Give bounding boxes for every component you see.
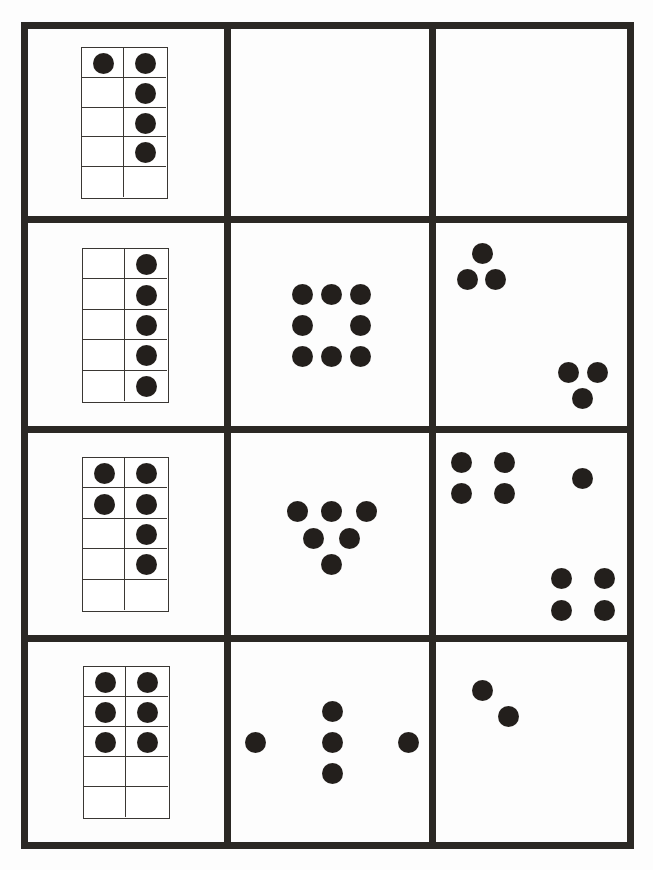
ten-frame-dot: [137, 672, 158, 693]
ten-frame-dot: [95, 702, 116, 723]
ten-frame-cell: [124, 167, 166, 197]
pattern-dot: [350, 346, 371, 367]
pattern-dot: [303, 528, 324, 549]
ten-frame-cell: [83, 580, 125, 610]
ten-frame-cell: [82, 167, 124, 197]
ten-frame-dot: [135, 83, 156, 104]
ten-frame-dot: [135, 113, 156, 134]
ten-frame-dot: [136, 494, 157, 515]
pattern-dot: [558, 362, 579, 383]
pattern-dot: [321, 554, 342, 575]
pattern-dot: [472, 680, 493, 701]
pattern-dot: [551, 600, 572, 621]
pattern-dot: [322, 701, 343, 722]
column-divider-1: [224, 22, 231, 849]
pattern-dot: [321, 501, 342, 522]
worksheet: [0, 0, 653, 870]
pattern-dot: [457, 269, 478, 290]
ten-frame-cell: [82, 137, 124, 167]
pattern-dot: [321, 284, 342, 305]
ten-frame-cell: [126, 757, 168, 787]
row-divider-2: [21, 426, 634, 433]
pattern-dot: [594, 568, 615, 589]
pattern-dot: [587, 362, 608, 383]
outer-border-right: [627, 22, 634, 849]
pattern-dot: [594, 600, 615, 621]
pattern-dot: [245, 732, 266, 753]
ten-frame-dot: [95, 672, 116, 693]
ten-frame-dot: [136, 315, 157, 336]
pattern-dot: [292, 346, 313, 367]
pattern-dot: [322, 763, 343, 784]
outer-border-top: [21, 22, 634, 29]
row-divider-1: [21, 216, 634, 223]
outer-border-bottom: [21, 842, 634, 849]
pattern-dot: [494, 452, 515, 473]
pattern-dot: [551, 568, 572, 589]
pattern-dot: [339, 528, 360, 549]
outer-border-left: [21, 22, 28, 849]
ten-frame-dot: [93, 53, 114, 74]
ten-frame-dot: [136, 285, 157, 306]
pattern-dot: [485, 269, 506, 290]
ten-frame-cell: [82, 108, 124, 138]
pattern-dot: [451, 452, 472, 473]
ten-frame-cell: [83, 549, 125, 579]
ten-frame-cell: [83, 519, 125, 549]
ten-frame-cell: [83, 279, 125, 309]
ten-frame-cell: [83, 340, 125, 370]
pattern-dot: [398, 732, 419, 753]
ten-frame-dot: [136, 376, 157, 397]
ten-frame-cell: [83, 249, 125, 279]
pattern-dot: [472, 243, 493, 264]
ten-frame-cell: [125, 580, 167, 610]
ten-frame-dot: [95, 732, 116, 753]
ten-frame-dot: [94, 494, 115, 515]
pattern-dot: [572, 388, 593, 409]
pattern-dot: [287, 501, 308, 522]
pattern-dot: [350, 315, 371, 336]
pattern-dot: [356, 501, 377, 522]
pattern-dot: [498, 706, 519, 727]
ten-frame-cell: [83, 371, 125, 401]
ten-frame-cell: [84, 787, 126, 817]
pattern-dot: [451, 483, 472, 504]
ten-frame-cell: [82, 78, 124, 108]
row-divider-3: [21, 635, 634, 642]
ten-frame-dot: [135, 53, 156, 74]
pattern-dot: [321, 346, 342, 367]
ten-frame-cell: [84, 757, 126, 787]
ten-frame-dot: [137, 732, 158, 753]
ten-frame-cell: [126, 787, 168, 817]
pattern-dot: [322, 732, 343, 753]
column-divider-2: [429, 22, 436, 849]
pattern-dot: [350, 284, 371, 305]
ten-frame-cell: [83, 310, 125, 340]
ten-frame-dot: [137, 702, 158, 723]
pattern-dot: [572, 468, 593, 489]
pattern-dot: [292, 284, 313, 305]
pattern-dot: [494, 483, 515, 504]
pattern-dot: [292, 315, 313, 336]
ten-frame-dot: [136, 524, 157, 545]
